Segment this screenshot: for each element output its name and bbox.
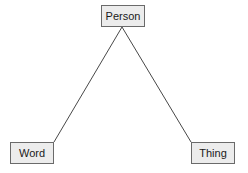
node-word-label: Word	[19, 147, 45, 159]
node-thing: Thing	[191, 142, 235, 164]
node-word: Word	[10, 142, 54, 164]
node-person: Person	[101, 5, 145, 27]
node-person-label: Person	[106, 10, 141, 22]
node-thing-label: Thing	[199, 147, 227, 159]
edge-person-word	[54, 27, 122, 142]
edge-person-thing	[122, 27, 191, 142]
